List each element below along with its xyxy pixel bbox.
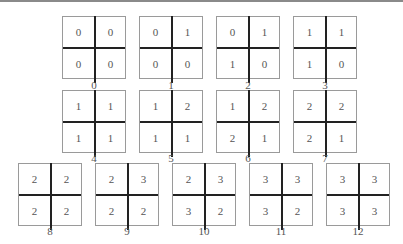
grid-box: 1111 [62,90,126,153]
grid-label: 10 [172,226,236,237]
grid-cell-top-left: 2 [173,164,204,194]
grid-cell-bottom-right: 3 [360,196,389,225]
vertical-divider [171,90,173,157]
grid-item-11: 333211 [249,163,313,226]
grid-cell-top-right: 2 [327,91,356,121]
vertical-divider [171,16,173,83]
grid-cell-top-right: 1 [96,91,125,121]
grid-cell-bottom-right: 0 [96,49,125,78]
grid-cell-top-left: 1 [63,91,94,121]
grid-cell-bottom-right: 1 [250,123,279,152]
grid-box: 0100 [139,16,203,79]
grid-box: 2222 [18,163,82,226]
grid-cell-top-right: 2 [52,164,81,194]
grid-cell-top-left: 0 [217,17,248,47]
grid-cell-top-right: 2 [173,91,202,121]
grid-item-5: 12115 [139,90,203,153]
grid-cell-bottom-left: 3 [173,196,204,225]
grid-label: 8 [18,226,82,237]
grid-box: 0110 [216,16,280,79]
grid-cell-bottom-left: 2 [294,123,325,152]
vertical-divider [50,163,52,230]
vertical-divider [94,16,96,83]
grid-cell-top-right: 0 [96,17,125,47]
grid-cell-top-left: 1 [217,91,248,121]
grid-cell-bottom-right: 0 [173,49,202,78]
vertical-divider [325,90,327,157]
grid-cell-top-right: 1 [250,17,279,47]
grid-cell-top-left: 0 [140,17,171,47]
grid-cell-top-left: 1 [140,91,171,121]
grid-cell-bottom-right: 1 [173,123,202,152]
vertical-divider [325,16,327,83]
grid-cell-bottom-left: 1 [140,123,171,152]
grid-cell-top-left: 2 [294,91,325,121]
grid-cell-bottom-right: 1 [327,123,356,152]
grid-cell-bottom-right: 2 [206,196,235,225]
grid-item-10: 233210 [172,163,236,226]
grid-cell-top-right: 3 [283,164,312,194]
grid-cell-bottom-right: 2 [283,196,312,225]
grid-cell-bottom-left: 3 [327,196,358,225]
grid-cell-top-right: 2 [250,91,279,121]
grid-item-3: 11103 [293,16,357,79]
grid-cell-top-right: 3 [360,164,389,194]
grid-cell-top-left: 2 [19,164,50,194]
grid-cell-bottom-left: 3 [250,196,281,225]
grid-cell-top-left: 0 [63,17,94,47]
top-rule [0,0,403,2]
grid-cell-top-right: 1 [173,17,202,47]
grid-box: 2322 [95,163,159,226]
grid-item-0: 00000 [62,16,126,79]
grid-cell-top-left: 2 [96,164,127,194]
grid-box: 0000 [62,16,126,79]
grid-cell-bottom-left: 0 [63,49,94,78]
grid-cell-bottom-left: 0 [140,49,171,78]
grid-box: 1110 [293,16,357,79]
grid-label: 9 [95,226,159,237]
grid-cell-top-left: 1 [294,17,325,47]
vertical-divider [281,163,283,230]
grid-cell-bottom-left: 2 [96,196,127,225]
vertical-divider [127,163,129,230]
grid-item-2: 01102 [216,16,280,79]
grid-cell-bottom-left: 1 [294,49,325,78]
grid-cell-top-right: 3 [129,164,158,194]
grid-item-12: 333312 [326,163,390,226]
grid-item-8: 22228 [18,163,82,226]
grid-box: 3332 [249,163,313,226]
grid-item-6: 12216 [216,90,280,153]
grid-box: 1221 [216,90,280,153]
grid-box: 3333 [326,163,390,226]
grid-cell-bottom-right: 2 [129,196,158,225]
grid-cell-top-right: 1 [327,17,356,47]
vertical-divider [94,90,96,157]
grid-label: 12 [326,226,390,237]
grid-cell-bottom-right: 2 [52,196,81,225]
grid-cell-bottom-left: 1 [63,123,94,152]
grid-cell-top-left: 3 [327,164,358,194]
grid-item-9: 23229 [95,163,159,226]
grid-box: 1211 [139,90,203,153]
grid-label: 11 [249,226,313,237]
vertical-divider [358,163,360,230]
grid-item-1: 01001 [139,16,203,79]
grid-box: 2221 [293,90,357,153]
grid-cell-bottom-left: 2 [19,196,50,225]
grid-cell-bottom-right: 0 [250,49,279,78]
grid-box: 2332 [172,163,236,226]
grid-cell-top-right: 3 [206,164,235,194]
grid-cell-bottom-left: 2 [217,123,248,152]
grid-cell-bottom-right: 0 [327,49,356,78]
grid-cell-bottom-left: 1 [217,49,248,78]
grid-cell-top-left: 3 [250,164,281,194]
grid-item-4: 11114 [62,90,126,153]
grid-cell-bottom-right: 1 [96,123,125,152]
vertical-divider [248,90,250,157]
vertical-divider [248,16,250,83]
grid-item-7: 22217 [293,90,357,153]
vertical-divider [204,163,206,230]
